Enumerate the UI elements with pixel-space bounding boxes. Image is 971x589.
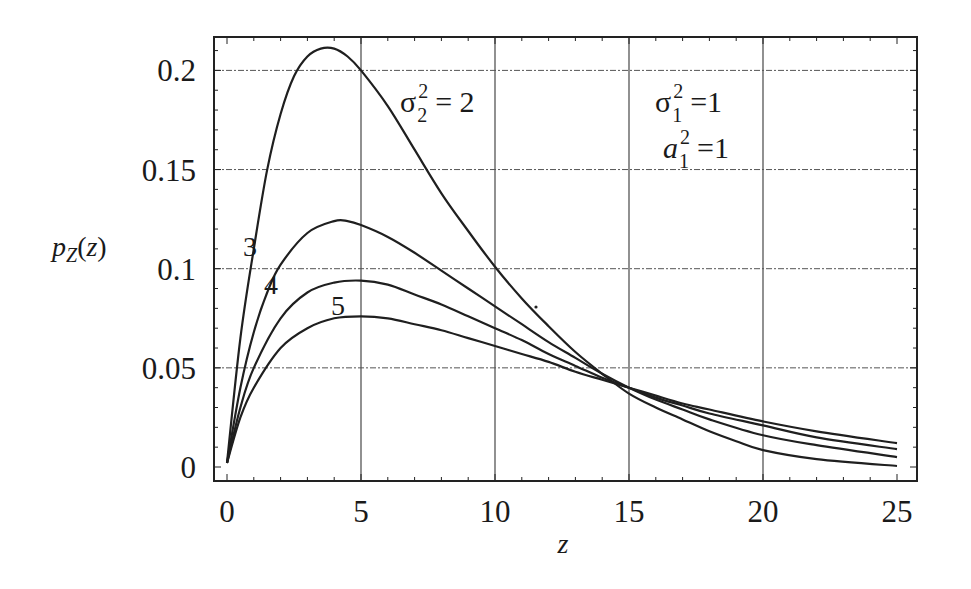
curve-label-4: 4 xyxy=(264,269,278,300)
y-tick-label: 0.1 xyxy=(157,252,196,287)
x-tick-label: 15 xyxy=(614,494,645,529)
plot-frame xyxy=(214,37,917,481)
x-tick-label: 20 xyxy=(748,494,779,529)
y-axis-tick-labels: 00.050.10.150.2 xyxy=(142,53,196,485)
series xyxy=(227,48,897,466)
x-axis-title: z xyxy=(557,528,569,559)
chart: 0510152025 00.050.10.150.2 z pZ(z) σ22= … xyxy=(0,0,971,589)
x-tick-label: 25 xyxy=(882,494,913,529)
curve-label-5: 5 xyxy=(331,290,345,321)
annotation-sigma2-equals-2: σ22= 2 xyxy=(400,80,475,126)
y-axis-title-p: p xyxy=(50,231,66,262)
y-axis-title: pZ(z) xyxy=(50,231,107,266)
curve-sigma2-2 xyxy=(227,48,897,466)
y-tick-label: 0.05 xyxy=(142,351,196,386)
grid xyxy=(214,37,917,481)
annotation-a1-equals-1: a21=1 xyxy=(663,126,729,172)
stray-dot xyxy=(534,305,537,308)
curve-sigma2-4 xyxy=(227,281,897,463)
x-axis-tick-labels: 0510152025 xyxy=(219,494,912,529)
y-tick-label: 0.2 xyxy=(157,53,196,88)
axis-ticks xyxy=(214,37,917,481)
curve-label-3: 3 xyxy=(243,231,257,262)
x-tick-label: 0 xyxy=(219,494,235,529)
x-tick-label: 10 xyxy=(480,494,511,529)
y-tick-label: 0.15 xyxy=(142,153,196,188)
curve-sigma2-3 xyxy=(227,220,897,463)
x-tick-label: 5 xyxy=(353,494,369,529)
annotation-sigma1-equals-1: σ21=1 xyxy=(655,80,722,126)
y-tick-label: 0 xyxy=(181,450,197,485)
